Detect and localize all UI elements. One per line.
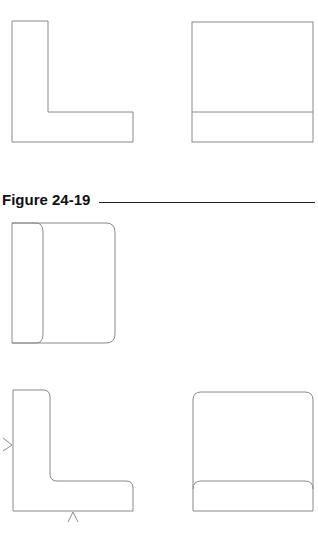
view-arrow-bottom-icon	[68, 512, 78, 522]
rounded-rect-band	[193, 392, 313, 511]
diagram-canvas	[0, 0, 318, 541]
figure-rule	[99, 202, 315, 203]
rect-band-top	[192, 22, 313, 142]
l-shape-top	[12, 21, 133, 142]
rounded-l-shape	[13, 390, 133, 511]
view-arrow-left-icon	[3, 438, 12, 451]
rounded-rect-left-panel	[12, 223, 115, 343]
figure-label: Figure 24-19	[2, 191, 90, 208]
